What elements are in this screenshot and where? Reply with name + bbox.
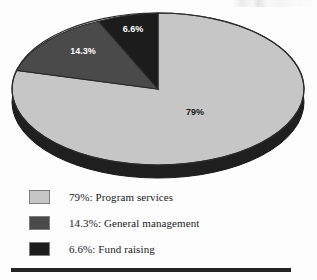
pie-chart-svg: 79% 14.3% 6.6% (0, 0, 317, 180)
legend-label-fund-raising: 6.6%: Fund raising (69, 243, 155, 255)
legend-label-program-services: 79%: Program services (69, 191, 173, 203)
legend-swatch-general-management (29, 216, 50, 230)
legend-swatch-fund-raising (29, 242, 50, 256)
chart-legend: 79%: Program services 14.3%: General man… (29, 184, 299, 262)
bottom-divider-rule (11, 268, 291, 272)
pie-slices (12, 13, 304, 165)
pie-chart-plot-area: 79% 14.3% 6.6% (0, 0, 317, 180)
legend-item-fund-raising[interactable]: 6.6%: Fund raising (29, 236, 299, 262)
legend-item-program-services[interactable]: 79%: Program services (29, 184, 299, 210)
legend-item-general-management[interactable]: 14.3%: General management (29, 210, 299, 236)
legend-label-general-management: 14.3%: General management (69, 217, 199, 229)
slice-value-label-fund-raising: 6.6% (123, 24, 144, 34)
legend-swatch-program-services (29, 190, 50, 204)
slice-value-label-general-management: 14.3% (70, 46, 96, 56)
slice-value-label-program-services: 79% (186, 107, 204, 117)
pie-chart-figure: 79% 14.3% 6.6% 79%: Program services 14.… (0, 0, 317, 280)
